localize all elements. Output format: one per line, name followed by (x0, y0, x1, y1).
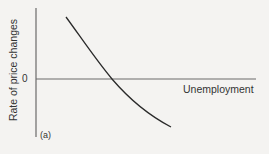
y-zero-tick-label: 0 (22, 73, 28, 84)
phillips-curve (66, 17, 171, 127)
x-axis-label: Unemployment (183, 83, 254, 95)
y-axis-label: Rate of price changes (7, 15, 19, 125)
panel-label: (a) (40, 130, 51, 140)
